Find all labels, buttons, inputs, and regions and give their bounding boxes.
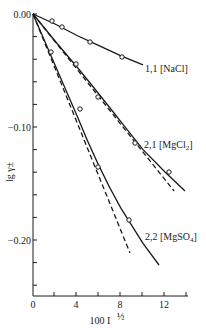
limiting-law-lines (33, 14, 174, 253)
data-point (127, 218, 131, 222)
y-tick-label-0: 0.00 (14, 9, 32, 20)
axes (33, 14, 188, 296)
x-tick-label-12: 12 (159, 299, 169, 310)
data-point (96, 165, 100, 169)
y-axis-title: lg γ± (4, 161, 15, 182)
data-point (50, 19, 54, 23)
x-tick-label-4: 4 (74, 299, 79, 310)
mgcl2-label-prefix: 2,1 [MgCl (144, 139, 186, 150)
data-point (49, 50, 53, 54)
mgcl2-points (74, 62, 171, 174)
y-tick-label-neg020: −0.20 (8, 235, 31, 246)
data-point (74, 62, 78, 66)
data-point (88, 40, 92, 44)
data-point (60, 25, 64, 29)
mgso4-limiting-law (33, 14, 130, 253)
series-label-mgcl2: 2,1 [MgCl2] (144, 139, 193, 152)
x-tick-label-0: 0 (31, 299, 36, 310)
data-point (167, 170, 171, 174)
x-axis-title-exponent: ½ (117, 311, 125, 322)
activity-coefficient-chart: 0.00 −0.10 −0.20 0 4 8 12 lg γ± 100 I ½ (0, 0, 206, 328)
series-label-nacl: 1,1 [NaCl] (145, 63, 188, 74)
mgso4-points (49, 50, 131, 222)
mgso4-label-suffix: ] (194, 231, 197, 242)
data-point (133, 141, 137, 145)
x-axis-title-main: 100 I (90, 315, 111, 326)
x-tick-label-8: 8 (118, 299, 123, 310)
data-point (120, 55, 124, 59)
series-label-mgso4: 2,2 [MgSO4] (145, 231, 197, 244)
nacl-points (50, 19, 124, 59)
y-ticks (33, 14, 37, 285)
mgso4-label-prefix: 2,2 [MgSO (145, 231, 190, 242)
x-axis-title: 100 I ½ (90, 311, 125, 326)
data-point (96, 95, 100, 99)
mgcl2-label-suffix: ] (189, 139, 192, 150)
mgcl2-curve (33, 14, 185, 191)
x-ticks (54, 292, 186, 296)
y-tick-label-neg010: −0.10 (8, 122, 31, 133)
data-point (78, 107, 82, 111)
